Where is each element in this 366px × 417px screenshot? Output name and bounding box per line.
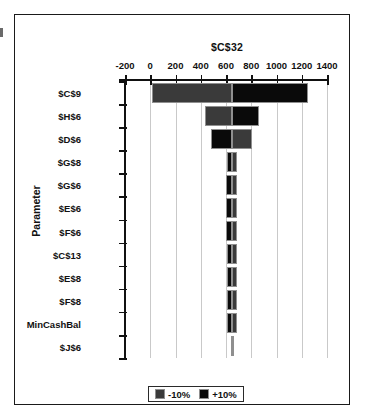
x-axis-tick-label: 1000 xyxy=(266,60,287,71)
category-label: $D$6 xyxy=(58,134,81,145)
x-axis-tick-label: 0 xyxy=(148,60,153,71)
x-axis-tick-label: 400 xyxy=(193,60,209,71)
y-axis-tick xyxy=(119,150,127,152)
bar-high xyxy=(232,83,308,103)
bar-low xyxy=(232,221,237,241)
y-axis-tick xyxy=(119,289,127,291)
category-label: $C$13 xyxy=(53,249,81,260)
x-axis-tick-label: 800 xyxy=(243,60,259,71)
bar-low xyxy=(232,313,237,333)
bar-low xyxy=(232,198,237,218)
x-gridline xyxy=(150,81,151,358)
category-label: $G$8 xyxy=(58,157,81,168)
category-label: $F$8 xyxy=(59,295,81,306)
bar-low xyxy=(232,290,237,310)
y-axis-tick xyxy=(119,196,127,198)
bar-high xyxy=(232,106,259,126)
bar-high xyxy=(227,290,232,310)
x-axis-tick-label: 1200 xyxy=(291,60,312,71)
y-axis-tick xyxy=(119,358,127,360)
y-axis-tick xyxy=(119,335,127,337)
x-axis-tick-label: 600 xyxy=(218,60,234,71)
bar-high xyxy=(227,152,232,172)
x-axis-tick xyxy=(327,75,329,85)
category-label: $C$9 xyxy=(58,88,81,99)
chart-legend: -10%+10% xyxy=(148,386,244,402)
category-label: $G$6 xyxy=(58,180,81,191)
scan-artifact xyxy=(0,28,3,37)
legend-swatch-icon xyxy=(199,389,209,399)
x-gridline xyxy=(302,81,303,358)
category-label: $H$6 xyxy=(58,111,81,122)
y-axis-tick xyxy=(119,243,127,245)
bar-low xyxy=(152,83,232,103)
y-axis-tick xyxy=(119,127,127,129)
legend-entry: -10% xyxy=(155,389,190,400)
bar-low xyxy=(232,244,237,264)
y-axis-tick xyxy=(119,173,127,175)
bar-low xyxy=(232,175,238,195)
y-axis-tick xyxy=(119,312,127,314)
category-label: $E$8 xyxy=(59,272,81,283)
legend-label: +10% xyxy=(212,389,237,400)
bar-low xyxy=(205,106,232,126)
bar-low xyxy=(232,267,237,287)
category-label: $F$6 xyxy=(59,226,81,237)
x-gridline xyxy=(201,81,202,358)
bar-high xyxy=(227,244,232,264)
legend-entry: +10% xyxy=(199,389,237,400)
category-label: $E$6 xyxy=(59,203,81,214)
x-gridline xyxy=(277,81,278,358)
bar-high xyxy=(211,129,232,149)
bar-high xyxy=(226,198,231,218)
y-axis-tick xyxy=(119,104,127,106)
x-axis-tick-label: 1400 xyxy=(316,60,337,71)
x-gridline xyxy=(176,81,177,358)
bar-low xyxy=(232,129,252,149)
bar-low xyxy=(232,152,237,172)
y-axis-title: Parameter xyxy=(30,171,42,251)
x-axis-tick-label: -200 xyxy=(115,60,134,71)
category-label: MinCashBal xyxy=(27,318,81,329)
x-axis-tick xyxy=(125,75,127,85)
chart-frame: $C$32 Parameter -10%+10% -20002004006008… xyxy=(14,14,350,405)
bar-high xyxy=(231,336,233,356)
x-axis-title: $C$32 xyxy=(125,41,329,53)
bar-high xyxy=(227,313,232,333)
y-axis-tick xyxy=(119,266,127,268)
y-axis-tick xyxy=(119,81,127,83)
category-label: $J$6 xyxy=(60,341,81,352)
x-axis-tick-label: 200 xyxy=(168,60,184,71)
legend-label: -10% xyxy=(168,389,190,400)
bar-high xyxy=(226,221,231,241)
bar-high xyxy=(226,175,232,195)
legend-swatch-icon xyxy=(155,389,165,399)
y-axis-tick xyxy=(119,220,127,222)
x-gridline xyxy=(327,81,328,358)
bar-high xyxy=(227,267,232,287)
